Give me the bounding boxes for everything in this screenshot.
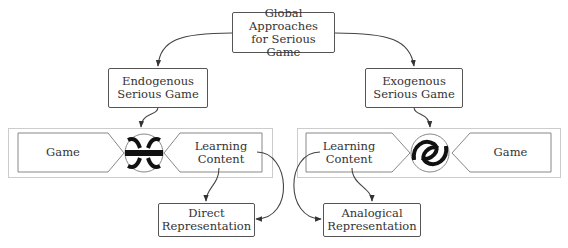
global-approaches-node: Global Approachesfor Serious Game xyxy=(232,12,335,53)
node-text: Representation xyxy=(327,220,416,233)
direct-representation-node: DirectRepresentation xyxy=(158,203,255,237)
node-text: Serious Game xyxy=(117,88,199,101)
node-text: for Serious Game xyxy=(233,33,334,59)
node-text: Content xyxy=(180,153,262,166)
node-text: Serious Game xyxy=(373,88,455,101)
analogical-representation-node: AnalogicalRepresentation xyxy=(323,203,421,237)
node-text: Content xyxy=(306,153,392,166)
interlocked-tight-icon xyxy=(125,134,163,172)
learning-content-left: Learning Content xyxy=(180,140,262,166)
node-text: Global Approaches xyxy=(233,7,334,33)
interlocked-loose-icon xyxy=(411,134,449,172)
learning-content-right: Learning Content xyxy=(306,140,392,166)
exogenous-node: ExogenousSerious Game xyxy=(365,68,463,108)
endogenous-node: EndogenousSerious Game xyxy=(108,68,208,108)
game-label-left: Game xyxy=(18,146,108,159)
node-text: Representation xyxy=(162,220,251,233)
game-label-right: Game xyxy=(470,146,551,159)
